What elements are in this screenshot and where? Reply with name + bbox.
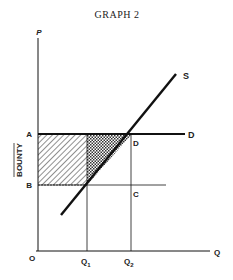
bounty-hatched-region (38, 134, 87, 185)
bounty-label: BOUNTY (15, 142, 24, 176)
origin-label: O (29, 254, 35, 263)
s-label: S (183, 71, 189, 81)
graph-canvas: GRAPH 2 P S A D D B C BOUNTY O Q Q1 Q2 (0, 0, 233, 280)
a-label: A (26, 130, 32, 139)
d-label-right: D (188, 130, 195, 140)
crosshatched-region (87, 134, 132, 185)
graph-title: GRAPH 2 (95, 9, 140, 20)
q2-label: Q2 (124, 257, 134, 268)
bounty-label-group: BOUNTY (14, 142, 24, 177)
q-axis-label: Q (214, 248, 220, 257)
p-axis-label: P (36, 28, 42, 37)
q1-label: Q1 (81, 257, 91, 268)
d-point-label: D (133, 139, 139, 148)
b-label: B (26, 181, 32, 190)
c-label: C (133, 190, 139, 199)
